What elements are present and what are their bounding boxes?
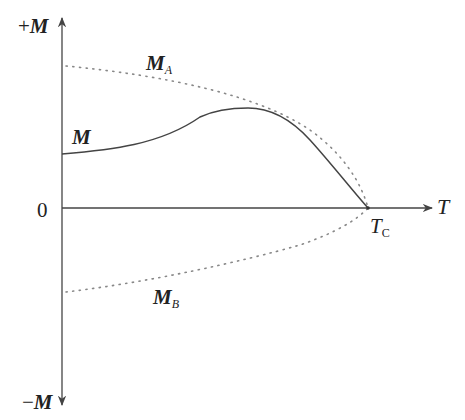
- y-negative-symbol: M: [34, 390, 53, 414]
- m-b-symbol: M: [153, 285, 172, 309]
- y-positive-sign: +: [18, 14, 30, 38]
- y-positive-label: +M: [18, 16, 49, 37]
- m-a-subscript: A: [165, 63, 172, 77]
- tc-subscript: C: [382, 226, 390, 240]
- tc-symbol: T: [370, 214, 382, 238]
- origin-label: 0: [37, 200, 48, 221]
- m-b-subscript: B: [172, 297, 179, 311]
- m-b-curve: [66, 208, 368, 292]
- y-positive-symbol: M: [30, 14, 49, 38]
- y-negative-label: −M: [22, 392, 53, 413]
- critical-point-marker: [366, 206, 370, 210]
- magnetization-diagram: [0, 0, 465, 420]
- m-a-label: MA: [146, 53, 172, 74]
- m-a-curve: [66, 66, 368, 208]
- critical-temperature-label: TC: [370, 216, 390, 237]
- x-axis-label: T: [437, 196, 449, 218]
- m-curve-label: M: [72, 127, 91, 148]
- m-b-label: MB: [153, 287, 179, 308]
- y-negative-sign: −: [22, 390, 34, 414]
- m-curve: [62, 108, 368, 208]
- m-a-symbol: M: [146, 51, 165, 75]
